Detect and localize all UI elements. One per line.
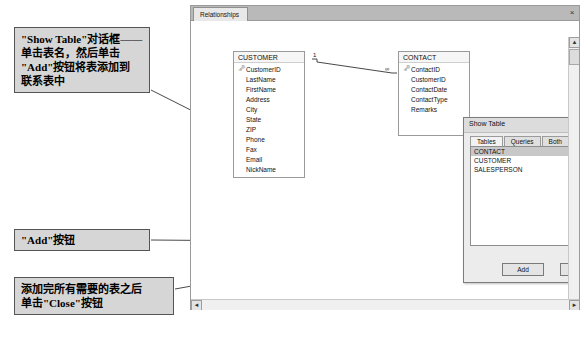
table-field[interactable]: Remarks <box>402 104 466 114</box>
table-field-list: ContactID CustomerID ContactDate Contact… <box>399 63 469 135</box>
object-list[interactable]: CONTACT CUSTOMER SALESPERSON <box>470 146 579 246</box>
dialog-buttons: Add Close <box>464 263 579 276</box>
table-field[interactable]: ContactDate <box>402 84 466 94</box>
table-field[interactable]: Email <box>237 154 301 164</box>
horizontal-scrollbar[interactable]: ◄ ► <box>191 299 579 310</box>
table-field-spacer <box>402 114 466 132</box>
show-table-dialog: Show Table ? × Tables Queries Both CONTA… <box>463 117 579 283</box>
relationship-many-label: ∞ <box>385 66 389 72</box>
table-title: CUSTOMER <box>234 52 304 63</box>
table-field[interactable]: CustomerID <box>402 74 466 84</box>
table-box-contact[interactable]: CONTACT ContactID CustomerID ContactDate… <box>398 51 470 136</box>
tab-both[interactable]: Both <box>542 136 569 146</box>
vertical-scrollbar[interactable]: ▲ ▼ <box>568 37 579 310</box>
relationships-window: Relationships × 1 ∞ CUSTOMER CustomerID … <box>190 5 580 310</box>
table-field[interactable]: City <box>237 104 301 114</box>
close-icon[interactable]: × <box>567 8 577 18</box>
dialog-title: Show Table <box>469 120 505 127</box>
annotation-add-button-note: "Add"按钮 <box>14 229 150 251</box>
annotation-show-table-note: "Show Table"对话框—— 单击表名，然后单击 "Add"按钮将表添加到… <box>14 27 150 93</box>
table-title: CONTACT <box>399 52 469 63</box>
list-item[interactable]: CONTACT <box>471 147 579 156</box>
table-field[interactable]: ContactType <box>402 94 466 104</box>
table-field[interactable]: NickName <box>237 164 301 174</box>
table-box-customer[interactable]: CUSTOMER CustomerID LastName FirstName A… <box>233 51 305 178</box>
dialog-title-bar[interactable]: Show Table ? × <box>464 118 579 133</box>
table-field[interactable]: CustomerID <box>237 64 301 74</box>
dialog-tabs: Tables Queries Both <box>470 136 569 146</box>
table-field-list: CustomerID LastName FirstName Address Ci… <box>234 63 304 177</box>
tab-queries[interactable]: Queries <box>504 136 541 146</box>
tab-tables[interactable]: Tables <box>470 136 503 146</box>
relationships-canvas[interactable]: 1 ∞ CUSTOMER CustomerID LastName FirstNa… <box>191 21 579 310</box>
add-button[interactable]: Add <box>502 263 544 276</box>
scroll-left-icon[interactable]: ◄ <box>191 300 202 310</box>
vertical-scroll-thumb[interactable] <box>569 49 579 65</box>
list-item[interactable]: SALESPERSON <box>471 165 579 174</box>
table-field[interactable]: Address <box>237 94 301 104</box>
table-field[interactable]: LastName <box>237 74 301 84</box>
scroll-right-icon[interactable]: ► <box>569 300 579 310</box>
scroll-up-icon[interactable]: ▲ <box>569 37 579 48</box>
table-field[interactable]: State <box>237 114 301 124</box>
table-field[interactable]: ZIP <box>237 124 301 134</box>
table-field[interactable]: ContactID <box>402 64 466 74</box>
table-field[interactable]: Fax <box>237 144 301 154</box>
annotation-close-button-note: 添加完所有需要的表之后 单击"Close"按钮 <box>14 277 174 315</box>
table-field[interactable]: FirstName <box>237 84 301 94</box>
window-tab-bar: Relationships × <box>191 6 579 21</box>
table-field[interactable]: Phone <box>237 134 301 144</box>
relationship-one-label: 1 <box>313 52 316 58</box>
screenshot-root: "Show Table"对话框—— 单击表名，然后单击 "Add"按钮将表添加到… <box>0 0 584 337</box>
list-item[interactable]: CUSTOMER <box>471 156 579 165</box>
tab-relationships[interactable]: Relationships <box>193 7 248 21</box>
